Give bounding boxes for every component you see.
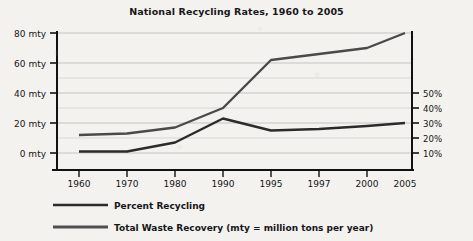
right-axis-ticks xyxy=(412,93,419,153)
legend-label-percent-recycling: Percent Recycling xyxy=(114,201,205,211)
x-axis-tick-1980: 1980 xyxy=(164,179,187,189)
right-axis-tick-20: 20% xyxy=(423,134,442,144)
left-axis-ticks xyxy=(50,33,57,153)
x-axis-tick-1960: 1960 xyxy=(68,179,91,189)
left-axis-tick-0: 0 mty xyxy=(20,149,47,159)
legend-label-total-waste-recovery: Total Waste Recovery (mty = million tons… xyxy=(114,223,373,233)
series-line-percent-recycling xyxy=(79,119,405,152)
series-line-total-waste-recovery xyxy=(79,33,405,135)
right-axis-tick-30: 30% xyxy=(423,119,442,129)
left-axis-tick-80: 80 mty xyxy=(14,29,47,39)
x-axis-tick-2000: 2000 xyxy=(356,179,379,189)
left-axis-tick-20: 20 mty xyxy=(14,119,47,129)
x-axis-ticks xyxy=(79,170,367,177)
x-axis-tick-1970: 1970 xyxy=(116,179,139,189)
right-axis-tick-40: 40% xyxy=(423,104,442,114)
chart-plot-area: 80 mty 60 mty 40 mty 20 mty 0 mty 50% 40… xyxy=(0,0,473,241)
recycling-rates-chart: National Recycling Rates, 1960 to 2005 xyxy=(0,0,473,241)
left-axis-tick-60: 60 mty xyxy=(14,59,47,69)
chart-legend: Percent Recycling Total Waste Recovery (… xyxy=(53,201,373,233)
left-axis-tick-40: 40 mty xyxy=(14,89,47,99)
right-axis-tick-50: 50% xyxy=(423,89,442,99)
gridlines-minor xyxy=(57,78,412,138)
right-axis-tick-10: 10% xyxy=(423,149,442,159)
x-axis-tick-1995: 1995 xyxy=(260,179,283,189)
x-axis-tick-2005: 2005 xyxy=(394,179,417,189)
x-axis-tick-1990: 1990 xyxy=(212,179,235,189)
x-axis-tick-1997: 1997 xyxy=(308,179,331,189)
